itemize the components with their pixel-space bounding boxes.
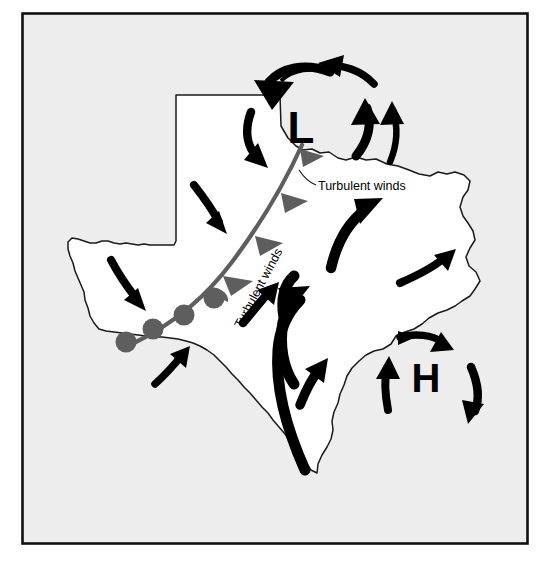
weather-map-svg: L H Turbulent winds Turbulent winds — [0, 0, 550, 563]
diagram-canvas: L H Turbulent winds Turbulent winds — [0, 0, 550, 563]
high-pressure-symbol: H — [412, 356, 441, 400]
turbulent-winds-label-horizontal: Turbulent winds — [318, 179, 406, 193]
low-pressure-symbol: L — [288, 103, 315, 152]
